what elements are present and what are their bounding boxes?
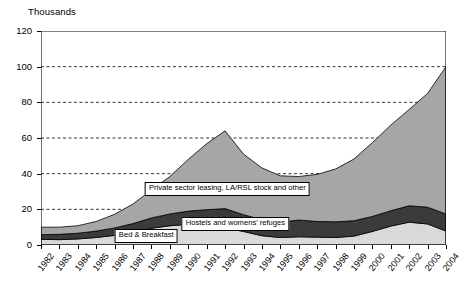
band-label: Bed & Breakfast [115, 229, 178, 243]
x-tick-mark [299, 245, 300, 249]
y-tick-label: 60 [2, 132, 32, 143]
x-tick-mark [207, 245, 208, 249]
x-tick-mark [225, 245, 226, 249]
stacked-area-chart: Thousands 020406080100120 19821983198419… [0, 0, 465, 282]
x-tick-mark [78, 245, 79, 249]
x-tick-mark [188, 245, 189, 249]
x-tick-mark [280, 245, 281, 249]
y-tick-label: 80 [2, 96, 32, 107]
x-tick-mark [336, 245, 337, 249]
x-tick-mark [59, 245, 60, 249]
x-tick-mark [428, 245, 429, 249]
plot-svg [41, 31, 446, 245]
x-tick-mark [446, 245, 447, 249]
x-tick-mark [409, 245, 410, 249]
plot-area [41, 31, 446, 245]
x-tick-mark [151, 245, 152, 249]
x-tick-mark [96, 245, 97, 249]
x-tick-mark [391, 245, 392, 249]
y-axis-title: Thousands [28, 6, 76, 17]
y-tick-label: 0 [2, 239, 32, 250]
y-tick-label: 40 [2, 168, 32, 179]
y-tick-label: 100 [2, 61, 32, 72]
y-tick-label: 120 [2, 25, 32, 36]
x-tick-mark [262, 245, 263, 249]
y-tick-label: 20 [2, 203, 32, 214]
x-tick-mark [133, 245, 134, 249]
band-label: Hostels and womens' refuges [182, 217, 289, 231]
band-label: Private sector leasing, LA/RSL stock and… [145, 182, 310, 196]
x-tick-mark [354, 245, 355, 249]
x-tick-mark [372, 245, 373, 249]
x-tick-mark [317, 245, 318, 249]
x-tick-mark [41, 245, 42, 249]
x-tick-mark [170, 245, 171, 249]
x-tick-mark [244, 245, 245, 249]
x-tick-mark [115, 245, 116, 249]
